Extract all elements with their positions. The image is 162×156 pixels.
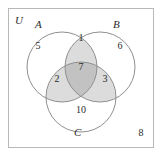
universal-set-label: U xyxy=(15,15,23,26)
region-count-b-only: 6 xyxy=(113,41,127,51)
set-label-c: C xyxy=(74,127,81,138)
region-count-a-and-c: 2 xyxy=(50,74,64,84)
region-count-a-only: 5 xyxy=(31,41,45,51)
venn-diagram-figure: U A B C 5 6 1 2 3 7 10 8 xyxy=(0,0,162,156)
region-count-c-only: 10 xyxy=(70,105,92,115)
region-count-a-and-b-and-c: 7 xyxy=(74,62,88,72)
set-label-b: B xyxy=(113,19,120,30)
set-label-a: A xyxy=(35,19,42,30)
region-count-outside-all: 8 xyxy=(134,128,148,138)
region-count-b-and-c: 3 xyxy=(98,74,112,84)
region-count-a-and-b: 1 xyxy=(74,33,88,43)
